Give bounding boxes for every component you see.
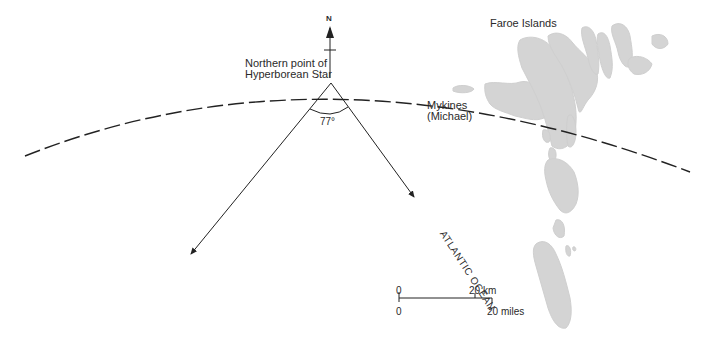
bearing-line-se: [331, 83, 414, 197]
map-canvas: Faroe Islands N Northern point of Hyperb…: [0, 0, 711, 345]
angle-arc: [310, 107, 348, 114]
mykines-label-line2: (Michael): [427, 110, 472, 123]
angle-label: 77°: [320, 115, 335, 128]
scale-miles-end: 20 miles: [487, 305, 524, 318]
bearing-line-sw: [191, 83, 331, 254]
star-point-label-line2: Hyperborean Star: [245, 68, 332, 81]
scale-km-start: 0: [396, 284, 402, 297]
region-title: Faroe Islands: [490, 17, 557, 30]
faroe-islands-landmass: [453, 24, 668, 329]
map-graphics: [0, 0, 711, 345]
scale-km-end: 20 km: [469, 284, 496, 297]
scale-miles-start: 0: [396, 305, 402, 318]
hyperborean-arc: [25, 99, 690, 172]
north-label: N: [326, 12, 332, 25]
